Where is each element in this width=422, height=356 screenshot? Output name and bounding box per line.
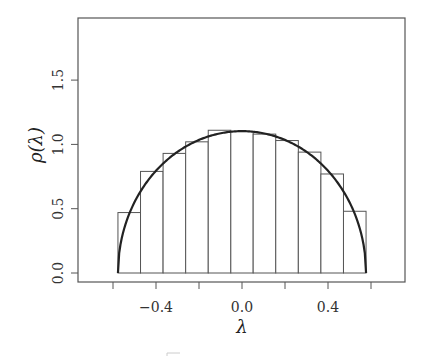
histogram-bar bbox=[321, 174, 344, 273]
y-tick-label: 0.5 bbox=[50, 198, 66, 220]
histogram-bar bbox=[208, 130, 231, 273]
histogram-bars bbox=[118, 130, 366, 273]
histogram-bar bbox=[186, 142, 209, 273]
chart: −0.40.00.4 0.00.51.01.5 λ ρ(λ) bbox=[0, 0, 422, 356]
y-tick-label: 0.0 bbox=[50, 262, 66, 284]
x-tick-label: 0.0 bbox=[231, 299, 253, 315]
cropped-next-line-fragment bbox=[0, 350, 422, 356]
x-axis: −0.40.00.4 bbox=[113, 282, 371, 315]
histogram-bar bbox=[163, 153, 186, 273]
x-axis-label: λ bbox=[235, 316, 247, 337]
y-axis: 0.00.51.01.5 bbox=[50, 69, 78, 284]
histogram-bar bbox=[253, 134, 276, 273]
y-tick-label: 1.5 bbox=[50, 69, 66, 91]
histogram-bar bbox=[298, 152, 321, 273]
histogram-bar bbox=[276, 141, 299, 273]
x-tick-label: −0.4 bbox=[139, 299, 173, 315]
x-tick-label: 0.4 bbox=[317, 299, 339, 315]
y-tick-label: 1.0 bbox=[50, 133, 66, 155]
y-axis-label: ρ(λ) bbox=[25, 127, 46, 164]
histogram-bar bbox=[231, 132, 253, 273]
